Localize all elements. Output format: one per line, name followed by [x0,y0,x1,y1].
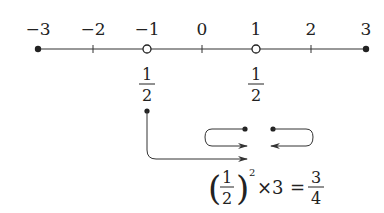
svg-text:1: 1 [142,65,152,84]
tick-label-0: 0 [197,19,208,39]
filled-dot-3 [363,46,369,52]
result-numerator: 3 [311,168,321,187]
fraction-half-under-neg1: 1 2 [139,65,155,105]
fraction-half-under-1: 1 2 [248,65,264,105]
svg-text:1: 1 [251,65,261,84]
tick-label-2: 2 [306,19,317,39]
loop-arrow-left [205,129,247,146]
equals-sign: = [290,177,305,198]
tick-label-1: 1 [251,19,262,39]
base-denominator: 2 [222,189,232,208]
svg-text:2: 2 [251,86,261,105]
times-three: ×3 [257,177,284,198]
tick-label-3: 3 [361,19,372,39]
diagram-canvas: −3 −2 −1 0 1 2 3 1 2 1 2 ( 1 2 ) 2 ×3 = [0,0,384,213]
exponent: 2 [249,167,255,178]
right-paren: ) [236,168,249,208]
open-circle-neg1 [143,45,151,53]
base-numerator: 1 [222,168,232,187]
tick-label-neg3: −3 [25,19,50,39]
tick-label-neg2: −2 [80,19,105,39]
left-paren: ( [208,168,221,208]
filled-dot-neg3 [35,46,41,52]
result-denominator: 4 [311,189,321,208]
equation: ( 1 2 ) 2 ×3 = 3 4 [208,167,324,208]
open-circle-1 [252,45,260,53]
loop-arrow-right [271,129,313,146]
svg-text:2: 2 [142,86,152,105]
tick-label-neg1: −1 [134,19,159,39]
arrow-to-equation [147,111,247,159]
